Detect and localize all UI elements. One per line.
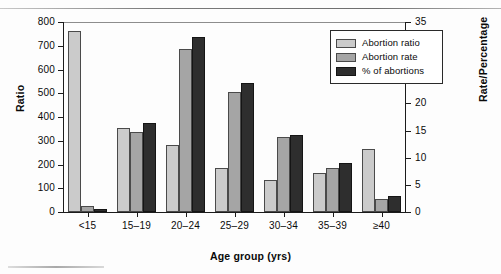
x-axis-tick — [235, 212, 236, 217]
y-axis-left-title: Ratio — [14, 85, 26, 112]
bar-group — [264, 22, 303, 212]
bar — [192, 37, 205, 212]
x-axis-tick-label: 20–24 — [161, 221, 210, 231]
y-axis-right-tick-label: 5 — [415, 180, 421, 190]
y-axis-left-tick-label: 300 — [38, 136, 55, 146]
bar-group — [68, 22, 107, 212]
x-axis-title: Age group (yrs) — [0, 250, 501, 262]
y-axis-left-tick-label: 100 — [38, 183, 55, 193]
y-axis-right-tick-label: 10 — [415, 153, 427, 163]
scan-artifact-top — [0, 8, 501, 9]
legend-item: Abortion ratio — [336, 36, 436, 50]
y-axis-left-line — [63, 22, 64, 213]
bar — [326, 168, 339, 213]
y-axis-right-tick-label: 20 — [415, 98, 427, 108]
scan-artifact-bottom — [8, 266, 104, 268]
bar — [215, 168, 228, 212]
bar — [179, 49, 192, 212]
y-axis-left-tick — [58, 93, 63, 94]
x-axis-tick-label: 25–29 — [210, 221, 259, 231]
bar — [228, 92, 241, 212]
bar-group — [117, 22, 156, 212]
chart-legend: Abortion ratio Abortion rate % of aborti… — [330, 30, 443, 84]
y-axis-right-tick — [406, 103, 411, 104]
x-axis-tick — [284, 212, 285, 217]
y-axis-left-tick — [58, 212, 63, 213]
x-axis-tick-label: 30–34 — [259, 221, 308, 231]
y-axis-left-tick — [58, 70, 63, 71]
legend-swatch-percent-of-abortions — [336, 67, 356, 76]
y-axis-right-tick — [406, 158, 411, 159]
y-axis-right-tick-label: 15 — [415, 126, 427, 136]
x-axis-tick-label: <15 — [63, 221, 112, 231]
bar — [339, 163, 352, 212]
y-axis-left-tick-label: 500 — [38, 88, 55, 98]
legend-swatch-abortion-ratio — [336, 39, 356, 48]
y-axis-right-title: Rate/Percentage — [477, 17, 489, 102]
x-axis-tick-label: 15–19 — [112, 221, 161, 231]
bar-group — [215, 22, 254, 212]
x-axis-tick — [137, 212, 138, 217]
y-axis-left-tick — [58, 46, 63, 47]
legend-item: Abortion rate — [336, 50, 436, 64]
chart-figure: Ratio Rate/Percentage Age group (yrs) 01… — [0, 0, 501, 274]
y-axis-right-tick — [406, 131, 411, 132]
y-axis-left-tick-label: 0 — [49, 207, 55, 217]
x-axis-tick-label: 35–39 — [308, 221, 357, 231]
bar — [362, 149, 375, 212]
bar-group — [166, 22, 205, 212]
x-axis-tick — [382, 212, 383, 217]
bar — [117, 128, 130, 212]
y-axis-left-tick-label: 800 — [38, 17, 55, 27]
legend-item: % of abortions — [336, 64, 436, 78]
y-axis-left-tick — [58, 117, 63, 118]
bar — [388, 196, 401, 212]
bar — [166, 145, 179, 212]
x-axis-tick — [186, 212, 187, 217]
bar — [143, 123, 156, 212]
y-axis-left-tick-label: 700 — [38, 41, 55, 51]
y-axis-right-tick — [406, 212, 411, 213]
legend-label-percent-of-abortions: % of abortions — [362, 66, 424, 76]
y-axis-left-tick — [58, 22, 63, 23]
y-axis-left-tick — [58, 165, 63, 166]
legend-swatch-abortion-rate — [336, 53, 356, 62]
y-axis-right-tick — [406, 22, 411, 23]
y-axis-right-tick — [406, 185, 411, 186]
bar — [241, 83, 254, 212]
bar — [290, 135, 303, 212]
bar — [277, 137, 290, 212]
bar — [130, 132, 143, 212]
x-axis-tick — [88, 212, 89, 217]
y-axis-left-tick-label: 600 — [38, 65, 55, 75]
x-axis-tick-label: ≥40 — [357, 221, 406, 231]
bar — [68, 31, 81, 212]
y-axis-left-tick — [58, 188, 63, 189]
x-axis-tick — [333, 212, 334, 217]
bar — [313, 173, 326, 212]
y-axis-right-tick-label: 35 — [415, 17, 427, 27]
y-axis-left-tick-label: 200 — [38, 160, 55, 170]
bar — [375, 199, 388, 212]
legend-label-abortion-rate: Abortion rate — [362, 52, 418, 62]
y-axis-left-tick-label: 400 — [38, 112, 55, 122]
bar — [94, 209, 107, 212]
legend-label-abortion-ratio: Abortion ratio — [362, 38, 420, 48]
bar — [264, 180, 277, 212]
y-axis-left-tick — [58, 141, 63, 142]
y-axis-right-tick-label: 0 — [415, 207, 421, 217]
